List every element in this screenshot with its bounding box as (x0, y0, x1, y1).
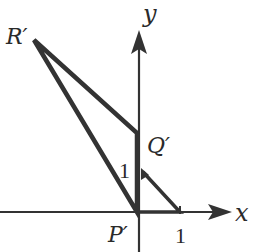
y-tick-label-one: 1 (119, 158, 130, 183)
original-triangle (139, 172, 180, 212)
point-label-r-prime: R′ (5, 24, 28, 49)
y-axis-label: y (142, 0, 157, 28)
point-label-p-prime: P′ (107, 222, 128, 247)
x-tick-label-one: 1 (175, 223, 186, 248)
coordinate-diagram: y x R′ Q′ P′ 1 1 (0, 0, 259, 252)
point-label-q-prime: Q′ (147, 133, 170, 158)
x-axis-label: x (235, 199, 249, 227)
triangle-pqr-prime (34, 40, 137, 212)
